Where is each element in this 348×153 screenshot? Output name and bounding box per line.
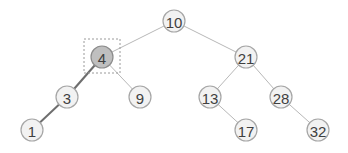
tree-node-28[interactable]: 28: [270, 86, 292, 108]
tree-node-13[interactable]: 13: [199, 86, 221, 108]
node-label: 3: [63, 90, 71, 107]
edge-10-21: [174, 21, 246, 57]
tree-node-10[interactable]: 10: [163, 10, 185, 32]
node-label: 13: [202, 90, 219, 107]
tree-node-9[interactable]: 9: [129, 86, 151, 108]
node-label: 32: [310, 123, 327, 140]
tree-node-3[interactable]: 3: [56, 86, 78, 108]
nodes-layer: 1042139132811732: [21, 10, 329, 141]
node-label: 17: [238, 123, 255, 140]
tree-diagram: 1042139132811732: [0, 0, 348, 153]
tree-node-21[interactable]: 21: [235, 46, 257, 68]
node-label: 10: [166, 14, 183, 31]
tree-node-4[interactable]: 4: [91, 46, 113, 68]
tree-node-17[interactable]: 17: [235, 119, 257, 141]
node-label: 9: [136, 90, 144, 107]
node-label: 1: [28, 123, 36, 140]
node-label: 28: [273, 90, 290, 107]
tree-node-32[interactable]: 32: [307, 119, 329, 141]
node-label: 21: [238, 50, 255, 67]
node-label: 4: [98, 50, 106, 67]
edges-layer: [32, 21, 318, 130]
tree-node-1[interactable]: 1: [21, 119, 43, 141]
